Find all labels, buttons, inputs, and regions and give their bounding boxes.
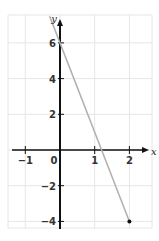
endpoint-marker xyxy=(127,219,131,223)
x-axis-label: x xyxy=(151,146,157,157)
grid xyxy=(8,15,152,228)
y-axis-arrow-icon xyxy=(57,19,63,26)
x-tick-label: −1 xyxy=(18,155,33,166)
y-tick-label: 4 xyxy=(49,74,56,85)
y-tick-label: 6 xyxy=(49,38,56,49)
y-tick-label: 2 xyxy=(49,109,56,120)
y-tick-label: −2 xyxy=(41,181,56,192)
x-tick-label: 2 xyxy=(126,155,133,166)
axes xyxy=(12,19,149,229)
series-line xyxy=(50,16,130,221)
y-axis-label: y xyxy=(50,13,57,24)
data-series xyxy=(50,16,132,223)
x-axis-arrow-icon xyxy=(142,147,149,153)
y-tick-label: −4 xyxy=(41,216,56,227)
x-tick-label: 0 xyxy=(51,155,58,166)
tick-marks xyxy=(25,43,129,222)
tick-labels: −1012−4−2246xy xyxy=(18,13,157,227)
line-chart: −1012−4−2246xy xyxy=(0,0,159,241)
x-tick-label: 1 xyxy=(91,155,98,166)
